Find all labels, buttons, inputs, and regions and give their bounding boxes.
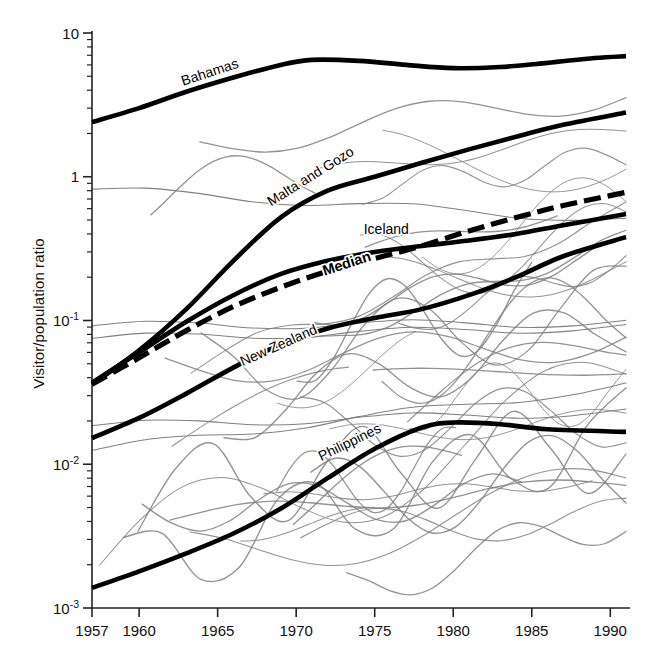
x-tick-label: 1960 (122, 622, 155, 639)
y-tick-label: 10-3 (53, 598, 79, 617)
background-series-line (382, 278, 626, 404)
background-series-line (422, 178, 626, 274)
curve-label-group: BahamasBahamasMalta and GozoMalta and Go… (179, 55, 409, 464)
series-line-bahamas (92, 56, 626, 122)
x-tick-label: 1975 (358, 622, 391, 639)
background-series-line (382, 256, 626, 297)
background-series-line (347, 523, 626, 595)
y-tick-label: 1 (71, 168, 79, 185)
y-tick-label: 10-1 (53, 310, 79, 329)
background-series-line (373, 368, 626, 375)
x-tick-label: 1957 (75, 622, 108, 639)
background-series-line (170, 480, 626, 520)
curve-label-median: Median (320, 248, 372, 279)
y-tick-label: 10 (62, 25, 79, 42)
background-series-line (398, 256, 626, 330)
background-series-group (92, 98, 626, 595)
background-series-line (190, 469, 626, 566)
x-tick-label: 1980 (437, 622, 470, 639)
series-line-malta-and-gozo (92, 112, 626, 384)
y-tick-label: 10-2 (53, 454, 79, 473)
x-tick-label: 1970 (279, 622, 312, 639)
x-tick-label: 1990 (594, 622, 627, 639)
background-series-line (92, 188, 626, 220)
x-tick-label: 1965 (201, 622, 234, 639)
background-series-line (142, 474, 522, 531)
tick-label-group: 1957196019651970197519801985199010110-11… (53, 25, 627, 640)
background-series-line (363, 148, 626, 204)
chart-figure: Visitor/population ratio BahamasBahamasM… (0, 0, 651, 667)
x-tick-label: 1985 (515, 622, 548, 639)
chart-canvas: BahamasBahamasMalta and GozoMalta and Go… (0, 0, 651, 667)
curve-label-iceland: Iceland (364, 221, 409, 237)
